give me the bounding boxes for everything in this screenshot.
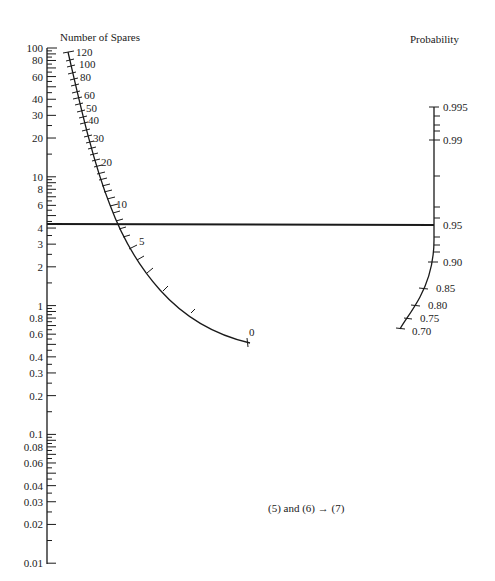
probability-label: 0.85 (436, 282, 456, 294)
probability-label: 0.95 (443, 219, 463, 231)
left-axis-label: 2 (38, 261, 44, 273)
left-axis-label: 100 (27, 42, 44, 54)
probability-label: 0.90 (443, 256, 463, 268)
left-axis-label: 0.04 (24, 480, 44, 492)
probability-label: 0.80 (428, 299, 448, 311)
left-axis-label: 40 (32, 93, 44, 105)
left-axis-label: 0.02 (24, 518, 43, 530)
caption: (5) and (6) → (7) (268, 502, 345, 515)
left-axis-label: 0.4 (29, 351, 43, 363)
curve-label: 60 (84, 89, 96, 101)
curve-label: 30 (93, 132, 105, 144)
curve-label: 80 (80, 71, 92, 83)
left-log-axis: 1008060403020108643210.80.60.40.30.20.10… (24, 42, 57, 569)
left-axis-label: 80 (32, 54, 44, 66)
probability-label: 0.75 (420, 312, 440, 324)
left-axis-label: 20 (32, 132, 44, 144)
right-axis-title: Probability (410, 33, 459, 45)
curve-label: 0 (249, 326, 255, 338)
left-axis-label: 0.3 (29, 367, 43, 379)
left-axis-label: 0.6 (29, 328, 43, 340)
left-axis-label: 60 (32, 71, 44, 83)
left-axis-label: 0.1 (29, 428, 43, 440)
left-axis-label: 0.01 (24, 557, 43, 569)
curve-label: 100 (79, 58, 96, 70)
curve-label: 120 (76, 46, 93, 58)
probability-label: 0.70 (412, 325, 432, 337)
curve-label: 10 (116, 198, 128, 210)
left-axis-label: 0.06 (24, 457, 44, 469)
left-axis-label: 4 (38, 222, 44, 234)
left-axis-label: 0.03 (24, 496, 44, 508)
left-axis-label: 8 (38, 183, 44, 195)
probability-scale: 0.995 0.99 0.95 0.90 0.85 0.80 0.75 0.70 (396, 101, 468, 337)
curve-label: 50 (86, 102, 98, 114)
probability-label: 0.99 (443, 134, 463, 146)
left-axis-label: 0.8 (29, 312, 43, 324)
left-axis-label: 0.2 (29, 390, 43, 402)
curve-label: 40 (88, 114, 100, 126)
left-axis-label: 6 (38, 199, 44, 211)
probability-label: 0.995 (443, 101, 468, 113)
curve-label: 5 (139, 235, 145, 247)
left-axis-label: 10 (32, 171, 44, 183)
left-axis-label: 30 (32, 109, 44, 121)
left-axis-title: Number of Spares (60, 31, 140, 43)
left-axis-label: 0.08 (24, 441, 44, 453)
left-axis-label: 1 (38, 300, 44, 312)
curve-label: 20 (101, 156, 113, 168)
nomogram: Number of Spares Probability 10080604030… (0, 0, 495, 581)
left-axis-label: 3 (38, 238, 44, 250)
index-line (47, 224, 434, 225)
spares-curve-scale: 120 100 80 60 50 40 30 20 10 5 0 (63, 46, 255, 347)
